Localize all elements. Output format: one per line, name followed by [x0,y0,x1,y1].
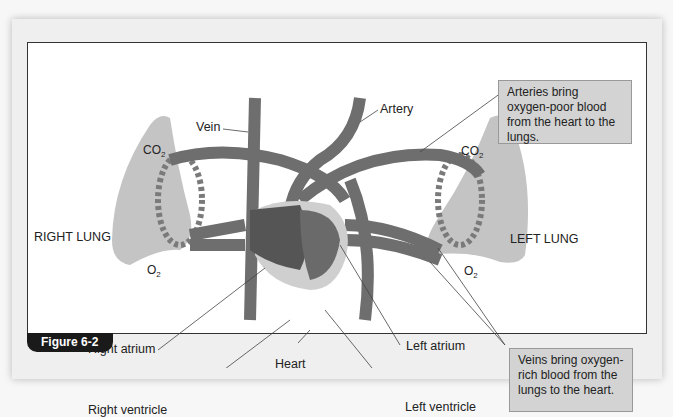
co2-label-left: CO2 [461,144,483,160]
co2-label-right: CO2 [143,143,165,159]
left-atrium-label: Left atrium [406,339,465,353]
veins-callout: Veins bring oxygen-rich blood from the l… [509,348,633,412]
figure-tab: Figure 6-2 [27,333,113,352]
right-lung-shape [112,116,191,265]
vein-vessel [250,98,255,320]
right-ventricle-label: Right ventricle [88,403,167,417]
o2-label-left: O2 [464,264,478,280]
vein-label: Vein [196,120,220,134]
heart-label: Heart [275,357,306,371]
arteries-callout: Arteries bring oxygen-poor blood from th… [498,80,632,144]
o2-label-right: O2 [147,263,161,279]
left-lung-label: LEFT LUNG [510,232,579,246]
left-ventricle-label: Left ventricle [405,400,476,414]
artery-label: Artery [380,102,413,116]
right-lung-label: RIGHT LUNG [34,230,111,244]
